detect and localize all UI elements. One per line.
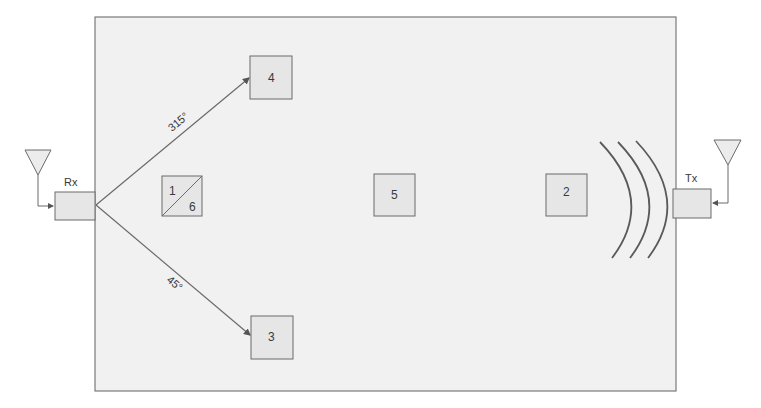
rx-label: Rx — [64, 176, 78, 188]
receiver: Rx — [55, 176, 95, 220]
position-2[interactable]: 2 — [546, 174, 587, 216]
rx-antenna-icon — [25, 150, 53, 206]
transmitter: Tx — [673, 172, 711, 218]
position-3[interactable]: 3 — [251, 316, 293, 359]
rx-box — [55, 192, 95, 220]
diagram-canvas: Rx 315° 45° 4 3 1 6 5 2 Tx — [0, 0, 761, 408]
position-5-label: 5 — [391, 188, 398, 202]
position-6-label: 6 — [189, 200, 196, 214]
position-1-label: 1 — [169, 184, 176, 198]
tx-box — [673, 189, 711, 218]
position-5[interactable]: 5 — [374, 174, 415, 216]
position-4-label: 4 — [268, 71, 275, 85]
position-4[interactable]: 4 — [250, 56, 292, 99]
position-3-label: 3 — [268, 330, 275, 344]
tx-label: Tx — [685, 172, 698, 184]
position-1-6[interactable]: 1 6 — [162, 176, 202, 216]
position-2-label: 2 — [563, 185, 570, 199]
tx-antenna-icon — [713, 140, 741, 203]
